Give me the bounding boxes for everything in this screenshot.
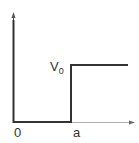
v0-subscript: 0 — [59, 66, 64, 76]
potential-profile — [14, 20, 129, 122]
potential-step-diagram: V0 0 a — [0, 0, 139, 143]
x-axis-arrow-icon — [129, 121, 135, 125]
step-position-label: a — [73, 125, 81, 140]
origin-label: 0 — [14, 125, 21, 140]
v0-label: V0 — [50, 59, 64, 76]
y-axis-arrow-icon — [12, 12, 16, 18]
